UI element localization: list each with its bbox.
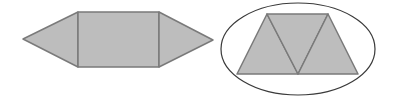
- left-figure-hexagon: [23, 12, 213, 67]
- right-figure-trapezoid: [221, 3, 375, 95]
- left-triangle: [23, 12, 78, 67]
- center-rectangle: [78, 12, 159, 67]
- geometry-figure: [0, 0, 396, 107]
- right-triangle: [159, 12, 213, 67]
